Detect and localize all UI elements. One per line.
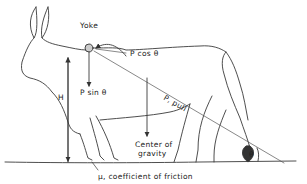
horn-left — [30, 7, 37, 38]
ox-neck-top — [42, 38, 86, 50]
theta-label: θ — [249, 151, 254, 159]
ox-tail — [222, 52, 250, 148]
p-sin-label: P sin θ — [80, 89, 107, 97]
ox-front-leg-2 — [90, 118, 104, 160]
ox-front-leg-1 — [80, 134, 92, 160]
friction-label: μ, coefficient of friction — [98, 173, 193, 181]
ox-back — [92, 46, 248, 120]
ground-line — [5, 161, 296, 163]
theta-arc — [257, 148, 259, 161]
height-label: H — [58, 94, 64, 102]
pull-line — [94, 51, 284, 163]
ox-hind-leg-2 — [196, 96, 212, 162]
yoke-label: Yoke — [80, 22, 98, 30]
horn-right — [41, 7, 48, 38]
ox-hind-leg-3 — [214, 110, 226, 162]
cg-label-line2: gravity — [138, 150, 166, 158]
cg-label-line1: Center of — [135, 141, 173, 149]
p-cos-arrow — [96, 44, 126, 56]
p-cos-label: P cos θ — [130, 50, 159, 58]
ox-force-diagram: Yoke P cos θ P sin θ P, pull H Center of… — [0, 0, 307, 184]
ox-head — [21, 38, 80, 134]
yoke-circle — [85, 44, 93, 52]
